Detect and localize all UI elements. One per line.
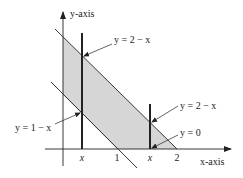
tick-label-x-right: x: [147, 152, 153, 163]
region-diagram: y-axis x-axis x 1 x 2 y = 2 − x y = 1 − …: [0, 0, 243, 178]
annotation-upper-left: y = 2 − x: [114, 34, 150, 45]
arrow-upper-left: [84, 44, 112, 56]
tick-label-2: 2: [175, 152, 180, 163]
tick-label-x-left: x: [79, 152, 85, 163]
arrow-upper-right: [152, 106, 178, 122]
y-axis-label: y-axis: [70, 8, 95, 19]
arrow-lower-left: [55, 113, 80, 124]
annotation-lower-left: y = 1 − x: [15, 122, 51, 133]
x-axis-label: x-axis: [200, 156, 225, 167]
tick-label-1: 1: [115, 152, 120, 163]
annotation-bottom-right: y = 0: [180, 127, 201, 138]
annotation-upper-right: y = 2 − x: [180, 100, 216, 111]
